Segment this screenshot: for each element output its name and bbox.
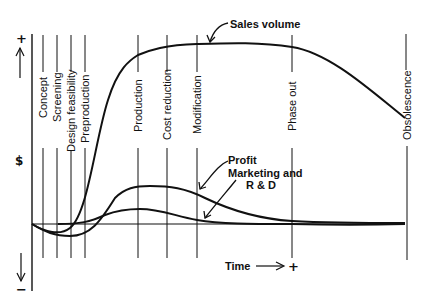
profit-curve bbox=[32, 186, 405, 236]
stage-label: Obsolescence bbox=[401, 70, 413, 140]
up-arrow-icon bbox=[16, 48, 24, 78]
stage-obsolescence: Obsolescence bbox=[401, 34, 413, 260]
life-cycle-diagram: + $ − Concept Screening Design feasibili… bbox=[0, 0, 422, 304]
y-axis-minus: − bbox=[16, 282, 27, 297]
profit-label: Profit bbox=[228, 154, 257, 166]
sales-volume-label: Sales volume bbox=[230, 18, 300, 30]
sales-volume-callout: Sales volume bbox=[207, 18, 300, 42]
stage-label: Concept bbox=[37, 77, 49, 118]
y-axis-plus: + bbox=[16, 31, 27, 46]
marketing-rd-callout: Marketing and R & D bbox=[204, 167, 303, 218]
time-axis-label: Time + bbox=[225, 259, 299, 274]
stage-label: Screening bbox=[51, 72, 63, 122]
marketing-label-line2: R & D bbox=[246, 179, 276, 191]
y-axis-dollar: $ bbox=[15, 154, 23, 168]
stage-label: Cost reduction bbox=[161, 69, 173, 140]
time-plus: + bbox=[288, 259, 299, 274]
stage-label: Preproduction bbox=[79, 75, 91, 144]
stage-label: Design feasibility bbox=[65, 69, 77, 152]
marketing-label-line1: Marketing and bbox=[228, 167, 303, 179]
stage-label: Phase out bbox=[286, 81, 298, 131]
stage-label: Production bbox=[132, 79, 144, 132]
down-arrow-icon bbox=[17, 253, 25, 281]
stage-label: Modification bbox=[191, 75, 203, 134]
time-label: Time bbox=[225, 260, 250, 272]
